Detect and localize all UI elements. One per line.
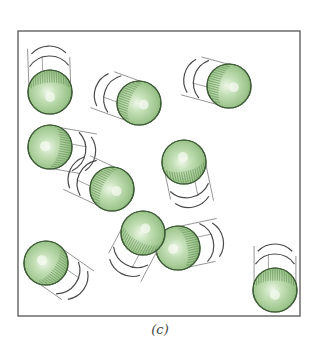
sphere-highlight [178, 152, 188, 162]
sphere-highlight [229, 82, 239, 92]
molecule [91, 72, 161, 125]
sphere-highlight [140, 224, 150, 234]
molecule [156, 218, 224, 270]
sphere-highlight [40, 141, 50, 151]
sphere-highlight [37, 255, 47, 265]
sphere-highlight [45, 92, 55, 102]
sphere-highlight [270, 290, 280, 300]
sphere-highlight [168, 244, 178, 254]
molecule [24, 241, 94, 300]
molecule [109, 211, 165, 282]
sphere-highlight [139, 100, 149, 110]
figure-caption: (c) [0, 322, 320, 337]
molecule [28, 125, 97, 173]
molecule [63, 156, 134, 211]
molecule [181, 57, 251, 108]
sphere-highlight [112, 186, 122, 196]
gas-molecules-diagram [0, 0, 320, 359]
molecule [28, 46, 72, 114]
molecule [253, 244, 297, 312]
molecule [162, 140, 214, 208]
molecules-group [24, 46, 297, 312]
